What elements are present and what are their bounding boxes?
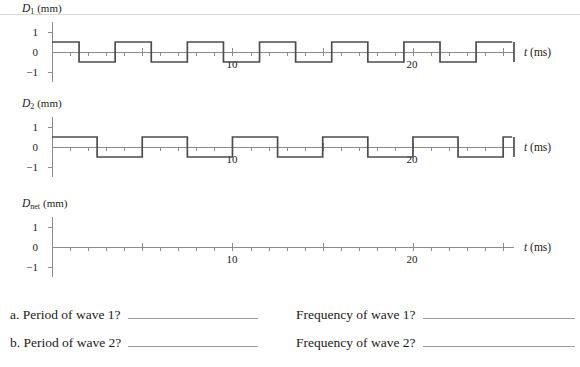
- question-a-period-answer-blank[interactable]: [128, 305, 258, 319]
- question-a-label: a. Period of wave 1?: [10, 307, 121, 323]
- graph-d2-waveform: [0, 95, 580, 190]
- question-b-period-answer-blank[interactable]: [128, 333, 258, 347]
- question-b-frequency: Frequency of wave 2?: [296, 333, 575, 351]
- graph-d1-waveform: [0, 0, 580, 95]
- question-b-frequency-label: Frequency of wave 2?: [296, 335, 416, 351]
- question-b-frequency-answer-blank[interactable]: [423, 333, 575, 347]
- graph-dnet: Dnet (mm) 1 0 −1 10 20 t (ms): [0, 195, 580, 290]
- question-a-frequency-answer-blank[interactable]: [423, 305, 575, 319]
- question-a-frequency: Frequency of wave 1?: [296, 305, 575, 323]
- graph-dnet-waveform: [0, 195, 580, 290]
- graph-d1: D1 (mm) 1 0 −1 10 20 t (ms): [0, 0, 580, 95]
- graph-d2: D2 (mm) 1 0 −1 10 20 t (ms): [0, 95, 580, 190]
- question-b-label: b. Period of wave 2?: [10, 335, 121, 351]
- question-row-a: a. Period of wave 1? Frequency of wave 1…: [0, 305, 580, 333]
- worksheet-page: D1 (mm) 1 0 −1 10 20 t (ms) D2 (mm) 1 0 …: [0, 0, 580, 367]
- question-row-b: b. Period of wave 2? Frequency of wave 2…: [0, 333, 580, 361]
- question-a-period: a. Period of wave 1?: [10, 305, 258, 323]
- question-a-frequency-label: Frequency of wave 1?: [296, 307, 416, 323]
- question-b-period: b. Period of wave 2?: [10, 333, 258, 351]
